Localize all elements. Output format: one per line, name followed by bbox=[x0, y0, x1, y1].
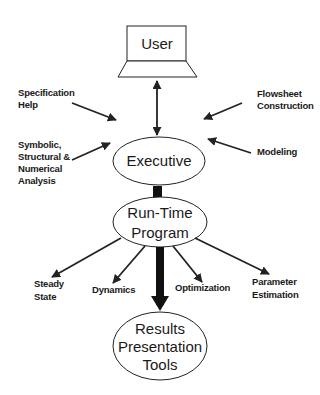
optimization-arrow bbox=[173, 246, 202, 282]
architecture-diagram: User Executive Specification Help Symbol… bbox=[0, 0, 320, 395]
parameter-estimation-arrow bbox=[195, 238, 269, 274]
analysis-arrow bbox=[72, 143, 110, 160]
svg-text:Analysis: Analysis bbox=[18, 175, 55, 186]
spec-help-arrow bbox=[72, 103, 116, 120]
user-node: User bbox=[118, 26, 197, 77]
dynamics-arrow bbox=[113, 246, 145, 283]
steady-state-arrow bbox=[52, 238, 121, 277]
svg-text:Structural &: Structural & bbox=[18, 151, 70, 162]
svg-text:Parameter: Parameter bbox=[252, 276, 297, 287]
svg-text:Modeling: Modeling bbox=[257, 146, 297, 157]
results-label-line3: Tools bbox=[142, 356, 177, 373]
flowsheet-label: Flowsheet Construction bbox=[257, 88, 314, 111]
user-label: User bbox=[141, 35, 173, 52]
runtime-node: Run-Time Program bbox=[113, 197, 207, 247]
spec-help-label: Specification Help bbox=[18, 87, 75, 110]
runtime-label-line2: Program bbox=[131, 224, 189, 241]
results-label-line2: Presentation bbox=[118, 338, 202, 355]
runtime-results-thick-arrow bbox=[151, 247, 169, 311]
parameter-estimation-label: Parameter Estimation bbox=[252, 276, 299, 300]
laptop-base-shape bbox=[118, 61, 197, 77]
optimization-label: Optimization bbox=[175, 282, 231, 293]
results-node: Results Presentation Tools bbox=[113, 312, 207, 380]
svg-text:Estimation: Estimation bbox=[252, 289, 299, 300]
modeling-arrow bbox=[208, 139, 251, 153]
flowsheet-arrow bbox=[204, 103, 242, 119]
results-label-line1: Results bbox=[135, 320, 185, 337]
steady-state-label: Steady State bbox=[34, 278, 65, 302]
svg-text:State: State bbox=[34, 291, 56, 302]
analysis-label: Symbolic, Structural & Numerical Analysi… bbox=[18, 139, 70, 186]
svg-text:Symbolic,: Symbolic, bbox=[18, 139, 61, 150]
dynamics-label: Dynamics bbox=[92, 284, 135, 295]
svg-text:Dynamics: Dynamics bbox=[92, 284, 135, 295]
svg-text:Optimization: Optimization bbox=[175, 282, 231, 293]
svg-text:Steady: Steady bbox=[34, 278, 65, 289]
svg-text:Specification: Specification bbox=[18, 87, 75, 98]
svg-text:Help: Help bbox=[18, 99, 38, 110]
svg-text:Flowsheet: Flowsheet bbox=[257, 88, 303, 99]
executive-node: Executive bbox=[113, 137, 205, 185]
runtime-label-line1: Run-Time bbox=[127, 204, 192, 221]
modeling-label: Modeling bbox=[257, 146, 297, 157]
svg-text:Construction: Construction bbox=[257, 100, 314, 111]
svg-text:Numerical: Numerical bbox=[18, 163, 62, 174]
executive-label: Executive bbox=[126, 152, 191, 169]
